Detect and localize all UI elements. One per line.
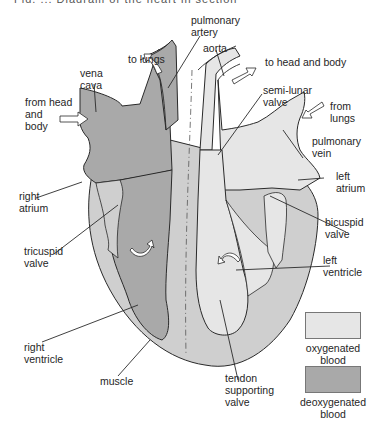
label-semi-lunar-valve: semi-lunar valve [263,84,312,108]
label-bicuspid-valve: bicuspid valve [325,216,364,240]
label-pulmonary-artery: pulmonary artery [191,14,240,38]
label-pulmonary-vein: pulmonary vein [312,135,361,159]
label-to-head-and-body: to head and body [265,56,346,68]
label-tricuspid-valve: tricuspid valve [24,245,63,269]
heart-diagram: Fig. ... Diagram of the heart in section… [0,0,384,429]
label-from-head-and-body: from head and body [25,96,72,132]
label-left-atrium: left atrium [336,170,365,194]
label-aorta: aorta [203,42,227,54]
legend-swatch-oxygenated [305,312,361,339]
label-right-ventricle: right ventricle [24,341,63,365]
legend-swatch-deoxygenated [305,366,361,393]
label-tendon-supporting-valve: tendon supporting valve [225,372,274,408]
label-muscle: muscle [100,375,133,387]
label-from-lungs: from lungs [330,100,355,124]
legend-label-deoxygenated: deoxygenated blood [294,396,372,420]
label-to-lungs: to lungs [128,53,165,65]
label-vena-cava: vena cava [80,67,103,91]
legend-label-oxygenated: oxygenated blood [298,342,368,366]
label-left-ventricle: left ventricle [323,254,362,278]
label-right-atrium: right atrium [19,190,48,214]
arrow-to-head-and-body [232,68,256,84]
